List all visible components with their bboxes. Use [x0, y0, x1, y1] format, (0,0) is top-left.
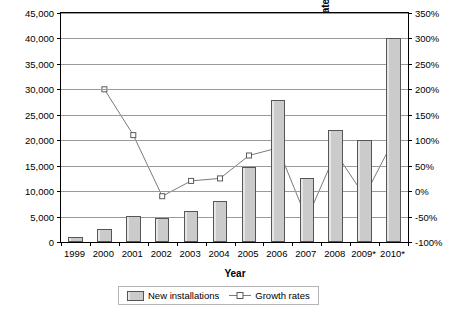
x-axis-tick-label: 2002 — [151, 248, 172, 259]
gridline — [61, 13, 408, 14]
y-axis-left-tick-label: 20,000 — [25, 135, 54, 146]
gridline — [61, 89, 408, 90]
growth-rates-line-series — [61, 13, 408, 242]
y-axis-right-tick-label: -50% — [415, 211, 437, 222]
x-axis-tick — [408, 242, 409, 246]
bar-2008 — [328, 130, 342, 242]
x-axis-tick-label: 2010* — [380, 248, 405, 259]
growth-rate-marker-2005 — [247, 153, 252, 158]
x-axis-tick — [61, 242, 62, 246]
bar-2005 — [242, 167, 256, 242]
y-axis-left-tick-label: 35,000 — [25, 58, 54, 69]
y-axis-right-tick-label: -100% — [415, 237, 442, 248]
y-axis-right-tick-label: 350% — [415, 8, 439, 19]
x-axis-tick — [235, 242, 236, 246]
y-axis-right-tick — [408, 217, 412, 218]
x-axis-title: Year — [0, 268, 470, 279]
y-axis-right-tick-label: 200% — [415, 84, 439, 95]
y-axis-right-tick-label: 50% — [415, 160, 434, 171]
y-axis-right-tick — [408, 191, 412, 192]
x-axis-tick — [90, 242, 91, 246]
line-circle-icon — [229, 291, 251, 300]
legend-item-growth-rates: Growth rates — [229, 290, 309, 301]
y-axis-right-tick-label: 250% — [415, 58, 439, 69]
bar-2002 — [155, 218, 169, 242]
gridline — [61, 64, 408, 65]
bar-2001 — [126, 216, 140, 242]
bar-2009-est — [357, 140, 371, 242]
bar-1999 — [68, 237, 82, 242]
y-axis-left-tick — [57, 166, 61, 167]
x-axis-tick-label: 2001 — [122, 248, 143, 259]
gridline — [61, 217, 408, 218]
bar-2003 — [184, 211, 198, 242]
x-axis-tick — [177, 242, 178, 246]
y-axis-left-tick — [57, 89, 61, 90]
gridline — [61, 140, 408, 141]
x-axis-tick-label: 2004 — [208, 248, 229, 259]
x-axis-tick — [321, 242, 322, 246]
bar-2000 — [97, 229, 111, 242]
y-axis-left-tick — [57, 140, 61, 141]
bar-2006 — [271, 100, 285, 242]
legend-label-growth-rates: Growth rates — [255, 290, 309, 301]
bar-2004 — [213, 201, 227, 242]
x-axis-tick — [379, 242, 380, 246]
x-axis-tick-label: 2007 — [295, 248, 316, 259]
gridline — [61, 115, 408, 116]
x-axis-tick — [119, 242, 120, 246]
y-axis-left-tick — [57, 191, 61, 192]
y-axis-left-tick-label: 25,000 — [25, 109, 54, 120]
plot-area: 05,00010,00015,00020,00025,00030,00035,0… — [60, 12, 409, 243]
y-axis-left-tick — [57, 64, 61, 65]
y-axis-left-tick — [57, 115, 61, 116]
legend-label-new-installations: New installations — [148, 290, 219, 301]
y-axis-left-tick-label: 40,000 — [25, 33, 54, 44]
y-axis-left-tick-label: 45,000 — [25, 8, 54, 19]
y-axis-right-tick-label: 150% — [415, 109, 439, 120]
y-axis-left-tick-label: 0 — [49, 237, 54, 248]
y-axis-right-tick — [408, 166, 412, 167]
x-axis-tick-label: 2008 — [324, 248, 345, 259]
gridline — [61, 191, 408, 192]
y-axis-left-tick — [57, 217, 61, 218]
y-axis-left-tick — [57, 38, 61, 39]
y-axis-left-tick — [57, 13, 61, 14]
y-axis-right-tick-label: 0% — [415, 186, 429, 197]
y-axis-right-tick-label: 300% — [415, 33, 439, 44]
y-axis-right-tick — [408, 140, 412, 141]
y-axis-right-tick — [408, 38, 412, 39]
x-axis-tick — [206, 242, 207, 246]
growth-rate-marker-2004 — [218, 176, 223, 181]
growth-rate-marker-2003 — [189, 178, 194, 183]
x-axis-tick — [263, 242, 264, 246]
y-axis-right-tick — [408, 115, 412, 116]
y-axis-left-tick-label: 10,000 — [25, 186, 54, 197]
chart-legend: New installations Growth rates — [118, 286, 319, 305]
x-axis-tick-label: 1999 — [64, 248, 85, 259]
bar-2010-est — [386, 38, 400, 242]
y-axis-right-tick-label: 100% — [415, 135, 439, 146]
x-axis-tick — [350, 242, 351, 246]
y-axis-right-tick — [408, 64, 412, 65]
chart-figure: New installations [units/a] Growth rates… — [0, 0, 470, 310]
x-axis-tick-label: 2006 — [266, 248, 287, 259]
y-axis-left-tick-label: 30,000 — [25, 84, 54, 95]
y-axis-right-tick — [408, 89, 412, 90]
gridline — [61, 38, 408, 39]
x-axis-tick-label: 2003 — [180, 248, 201, 259]
x-axis-tick-label: 2005 — [237, 248, 258, 259]
gridline — [61, 166, 408, 167]
legend-item-new-installations: New installations — [127, 290, 219, 301]
y-axis-left-tick-label: 5,000 — [30, 211, 54, 222]
bar-2007 — [300, 178, 314, 242]
x-axis-tick — [292, 242, 293, 246]
growth-rate-marker-2001 — [131, 133, 136, 138]
x-axis-tick-label: 2000 — [93, 248, 114, 259]
bar-swatch-icon — [127, 291, 144, 301]
x-axis-tick — [148, 242, 149, 246]
y-axis-left-tick-label: 15,000 — [25, 160, 54, 171]
y-axis-right-tick — [408, 13, 412, 14]
x-axis-tick-label: 2009* — [351, 248, 376, 259]
growth-rate-marker-2002 — [160, 194, 165, 199]
